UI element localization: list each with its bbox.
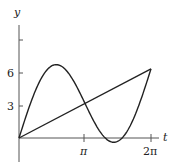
x-tick-label-pi: π (79, 145, 88, 158)
x-tick-label-2pi: 2π (143, 145, 157, 158)
y-axis-label: y (13, 6, 21, 19)
x-axis-label: t (163, 131, 168, 144)
y-tick-label-3: 3 (7, 100, 14, 113)
curve-series-t-plus-sin (19, 65, 151, 143)
chart: y t 6 3 π 2π (0, 0, 174, 168)
y-tick-label-6: 6 (7, 67, 14, 80)
